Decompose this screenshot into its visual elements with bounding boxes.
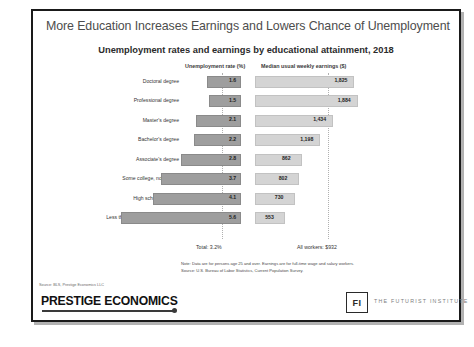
category-label: Master's degree (143, 117, 179, 123)
unemployment-value-label: 1.6 (229, 77, 236, 83)
column-header-earnings: Median usual weekly earnings ($) (261, 63, 346, 69)
category-label: Professional degree (134, 97, 179, 103)
earnings-value-label: 802 (279, 175, 288, 181)
chart-row: Some college, no degree3.7802 (33, 171, 463, 191)
chart-row: Doctoral degree1.61,825 (33, 73, 463, 93)
unemployment-bar (153, 193, 241, 205)
category-label: Doctoral degree (143, 78, 179, 84)
unemployment-value-label: 1.5 (229, 97, 236, 103)
chart-row: Associate's degree2.8862 (33, 151, 463, 171)
unemployment-value-label: 5.6 (229, 214, 236, 220)
all-workers-earnings-label: All workers: $932 (297, 244, 337, 250)
unemployment-value-label: 2.8 (229, 155, 236, 161)
earnings-value-label: 1,434 (313, 116, 326, 122)
page-title: More Education Increases Earnings and Lo… (46, 19, 450, 33)
earnings-bar (255, 173, 299, 185)
chart-row: Less than a high school diploma5.6553 (33, 210, 463, 230)
earnings-value-label: 862 (282, 155, 291, 161)
unemployment-value-label: 3.7 (229, 175, 236, 181)
chart-row: Bachelor's degree2.21,198 (33, 132, 463, 152)
earnings-value-label: 1,825 (334, 77, 347, 83)
unemployment-value-label: 2.2 (229, 136, 236, 142)
source-credit: Source: BLS, Prestige Economics LLC (39, 283, 104, 287)
slide-frame: More Education Increases Earnings and Lo… (31, 9, 461, 322)
chart-plot-area: Doctoral degree1.61,825Professional degr… (33, 73, 463, 243)
unemployment-value-label: 4.1 (229, 194, 236, 200)
earnings-value-label: 1,198 (300, 136, 313, 142)
category-label: Associate's degree (136, 156, 179, 162)
earnings-bar (255, 154, 302, 166)
chart-row: High school diploma4.1730 (33, 190, 463, 210)
chart-note-line-1: Note: Data are for persons age 25 and ov… (181, 261, 354, 266)
futurist-institute-logo: FI (346, 292, 368, 313)
unemployment-bar (121, 212, 241, 224)
earnings-value-label: 730 (275, 194, 284, 200)
earnings-value-label: 1,884 (338, 97, 351, 103)
column-header-unemployment: Unemployment rate (%) (185, 63, 245, 69)
chart-row: Master's degree2.11,434 (33, 112, 463, 132)
earnings-value-label: 553 (265, 214, 274, 220)
futurist-institute-name: THE FUTURIST INSTITUTE (374, 298, 469, 304)
chart-note-line-2: Source: U.S. Bureau of Labor Statistics,… (181, 268, 303, 273)
total-unemployment-label: Total: 3.2% (196, 244, 222, 250)
brand-underline (42, 310, 173, 312)
brand-wordmark: PRESTIGE ECONOMICS (41, 294, 178, 308)
category-label: Bachelor's degree (138, 136, 179, 142)
chart-title: Unemployment rates and earnings by educa… (33, 45, 459, 55)
brand-underline-dot (172, 308, 177, 313)
chart-row: Professional degree1.51,884 (33, 93, 463, 113)
unemployment-value-label: 2.1 (229, 116, 236, 122)
